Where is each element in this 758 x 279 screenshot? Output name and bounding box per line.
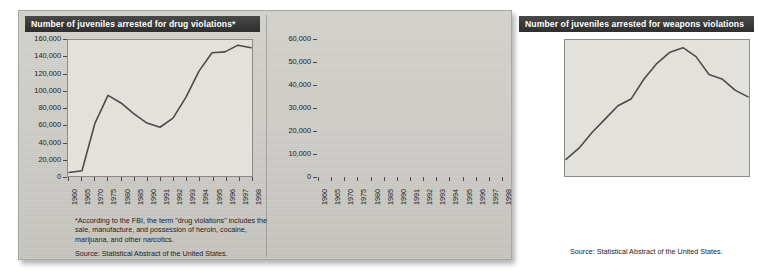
x-axis-tick-mark bbox=[147, 177, 148, 181]
x-axis-tick-mark bbox=[239, 177, 240, 181]
x-axis-tick-mark bbox=[397, 177, 398, 181]
y-axis-tick-label: 20,000 bbox=[267, 127, 311, 135]
y-axis-tick-mark bbox=[63, 177, 67, 178]
x-axis-tick-label: 1980 bbox=[374, 189, 381, 205]
x-axis-tick-label: 1996 bbox=[229, 189, 236, 205]
x-axis-tick-mark bbox=[344, 177, 345, 181]
x-axis-tick-label: 1975 bbox=[110, 189, 117, 205]
y-axis-tick-mark bbox=[63, 39, 67, 40]
x-axis-tick-label: 1960 bbox=[71, 189, 78, 205]
x-axis-tick-label: 1994 bbox=[452, 189, 459, 205]
y-axis-tick-label: 140,000 bbox=[17, 52, 61, 60]
x-axis-tick-label: 1995 bbox=[216, 189, 223, 205]
chart-panel-weapons-violations: Number of juveniles arrested for weapons… bbox=[266, 11, 513, 261]
x-axis-tick-label: 1991 bbox=[413, 189, 420, 205]
chart-source-weapons-violations: Source: Statistical Abstract of the Unit… bbox=[570, 247, 758, 256]
chart-title-weapons-violations: Number of juveniles arrested for weapons… bbox=[519, 16, 754, 32]
x-axis-tick-label: 1992 bbox=[426, 189, 433, 205]
x-axis-tick-label: 1991 bbox=[163, 189, 170, 205]
x-axis-tick-mark bbox=[252, 177, 253, 181]
y-axis-tick-mark bbox=[63, 108, 67, 109]
x-axis-tick-label: 1993 bbox=[439, 189, 446, 205]
x-axis-tick-label: 1992 bbox=[176, 189, 183, 205]
line-series-drug-violations bbox=[68, 40, 252, 176]
y-axis-tick-mark bbox=[63, 143, 67, 144]
x-axis-tick-label: 1994 bbox=[202, 189, 209, 205]
chart-footnote-drug-violations: *According to the FBI, the term "drug vi… bbox=[75, 216, 270, 244]
y-axis-tick-label: 60,000 bbox=[267, 35, 311, 43]
line-series-weapons-violations bbox=[565, 40, 749, 176]
x-axis-tick-mark bbox=[384, 177, 385, 181]
x-axis-tick-mark bbox=[94, 177, 95, 181]
x-axis-tick-label: 1990 bbox=[400, 189, 407, 205]
y-axis-tick-label: 10,000 bbox=[267, 150, 311, 158]
y-axis-tick-mark bbox=[313, 85, 317, 86]
x-axis-tick-label: 1975 bbox=[360, 189, 367, 205]
x-axis-tick-label: 1998 bbox=[505, 189, 512, 205]
x-axis-tick-mark bbox=[476, 177, 477, 181]
chart-panel-drug-violations: Number of juveniles arrested for drug vi… bbox=[19, 11, 266, 261]
y-axis-tick-mark bbox=[313, 39, 317, 40]
x-axis-tick-label: 1985 bbox=[387, 189, 394, 205]
x-axis-tick-label: 1990 bbox=[150, 189, 157, 205]
x-axis-tick-label: 1995 bbox=[466, 189, 473, 205]
x-axis-tick-label: 1960 bbox=[321, 189, 328, 205]
x-axis-tick-mark bbox=[423, 177, 424, 181]
y-axis-tick-label: 60,000 bbox=[17, 121, 61, 129]
y-axis-tick-mark bbox=[313, 62, 317, 63]
y-axis-tick-mark bbox=[63, 160, 67, 161]
x-axis-tick-mark bbox=[199, 177, 200, 181]
x-axis-tick-mark bbox=[318, 177, 319, 181]
y-axis-tick-label: 20,000 bbox=[17, 156, 61, 164]
y-axis-tick-label: 0 bbox=[17, 173, 61, 181]
y-axis-tick-mark bbox=[63, 91, 67, 92]
y-axis-tick-mark bbox=[63, 125, 67, 126]
x-axis-tick-mark bbox=[68, 177, 69, 181]
y-axis-tick-label: 100,000 bbox=[17, 87, 61, 95]
x-axis-tick-mark bbox=[107, 177, 108, 181]
y-axis-tick-mark bbox=[313, 108, 317, 109]
y-axis-tick-mark bbox=[63, 56, 67, 57]
x-axis-tick-label: 1970 bbox=[347, 189, 354, 205]
x-axis-tick-mark bbox=[449, 177, 450, 181]
plot-line-drug-violations bbox=[68, 40, 252, 176]
x-axis-tick-mark bbox=[160, 177, 161, 181]
y-axis-tick-label: 80,000 bbox=[17, 104, 61, 112]
chart-source-drug-violations: Source: Statistical Abstract of the Unit… bbox=[75, 249, 270, 258]
y-axis-tick-label: 120,000 bbox=[17, 70, 61, 78]
x-axis-tick-mark bbox=[489, 177, 490, 181]
y-axis-tick-mark bbox=[313, 177, 317, 178]
x-axis-tick-mark bbox=[436, 177, 437, 181]
y-axis-tick-label: 160,000 bbox=[17, 35, 61, 43]
plot-area-drug-violations bbox=[67, 39, 253, 177]
x-axis-tick-mark bbox=[226, 177, 227, 181]
x-axis-tick-mark bbox=[502, 177, 503, 181]
x-axis-tick-label: 1965 bbox=[84, 189, 91, 205]
x-axis-tick-mark bbox=[463, 177, 464, 181]
y-axis-tick-label: 50,000 bbox=[267, 58, 311, 66]
plot-area-weapons-violations bbox=[564, 39, 750, 177]
x-axis-tick-label: 1985 bbox=[137, 189, 144, 205]
y-axis-tick-label: 0 bbox=[267, 173, 311, 181]
x-axis-tick-label: 1993 bbox=[189, 189, 196, 205]
x-axis-tick-mark bbox=[173, 177, 174, 181]
y-axis-tick-mark bbox=[313, 131, 317, 132]
y-axis-tick-label: 30,000 bbox=[267, 104, 311, 112]
x-axis-tick-label: 1970 bbox=[97, 189, 104, 205]
x-axis-tick-mark bbox=[371, 177, 372, 181]
x-axis-tick-mark bbox=[410, 177, 411, 181]
y-axis-tick-mark bbox=[313, 154, 317, 155]
x-axis-tick-label: 1980 bbox=[124, 189, 131, 205]
y-axis-tick-label: 40,000 bbox=[17, 139, 61, 147]
plot-line-weapons-violations bbox=[565, 40, 749, 176]
x-axis-tick-mark bbox=[121, 177, 122, 181]
x-axis-tick-mark bbox=[186, 177, 187, 181]
x-axis-tick-mark bbox=[213, 177, 214, 181]
x-axis-tick-label: 1965 bbox=[334, 189, 341, 205]
x-axis-tick-label: 1996 bbox=[479, 189, 486, 205]
x-axis-tick-mark bbox=[357, 177, 358, 181]
chart-title-drug-violations: Number of juveniles arrested for drug vi… bbox=[25, 16, 260, 32]
x-axis-tick-mark bbox=[331, 177, 332, 181]
x-axis-tick-label: 1998 bbox=[255, 189, 262, 205]
y-axis-tick-mark bbox=[63, 74, 67, 75]
